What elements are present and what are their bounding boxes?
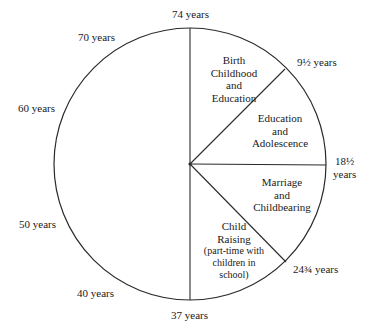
segment-line: Raising <box>194 233 274 246</box>
segment-education-adolescence: Education and Adolescence <box>240 112 320 150</box>
segment-line: Education <box>240 112 320 125</box>
segment-line: Education <box>196 92 272 105</box>
label-9-5-years: 9½ years <box>297 56 337 68</box>
center-dot <box>188 162 191 165</box>
segment-child-raising: Child Raising (part-time with children i… <box>194 220 274 281</box>
segment-line: and <box>242 189 322 202</box>
label-70-years: 70 years <box>78 31 115 43</box>
segment-birth-childhood-education: Birth Childhood and Education <box>196 54 272 104</box>
label-37-years: 37 years <box>171 309 208 321</box>
segment-line: and <box>196 79 272 92</box>
segment-line: Childbearing <box>242 201 322 214</box>
label-18-5-unit: years <box>333 168 356 180</box>
label-18-5-number: 18½ <box>335 155 354 167</box>
label-50-years: 50 years <box>19 218 56 230</box>
segment-line: Childhood <box>196 67 272 80</box>
segment-line: Marriage <box>242 176 322 189</box>
segment-line: Child <box>194 220 274 233</box>
label-40-years: 40 years <box>77 287 114 299</box>
life-cycle-diagram: 74 years 70 years 60 years 50 years 40 y… <box>0 0 374 328</box>
segment-line: school) <box>194 269 274 281</box>
label-60-years: 60 years <box>18 102 55 114</box>
segment-marriage-childbearing: Marriage and Childbearing <box>242 176 322 214</box>
segment-line: Adolescence <box>240 137 320 150</box>
pie-graphic <box>0 0 374 328</box>
segment-line: and <box>240 125 320 138</box>
divider-18-5-years <box>190 164 326 165</box>
segment-line: (part-time with <box>194 245 274 257</box>
segment-line: children in <box>194 257 274 269</box>
label-74-years: 74 years <box>172 8 209 20</box>
segment-line: Birth <box>196 54 272 67</box>
label-24-75-years: 24¾ years <box>293 263 338 275</box>
